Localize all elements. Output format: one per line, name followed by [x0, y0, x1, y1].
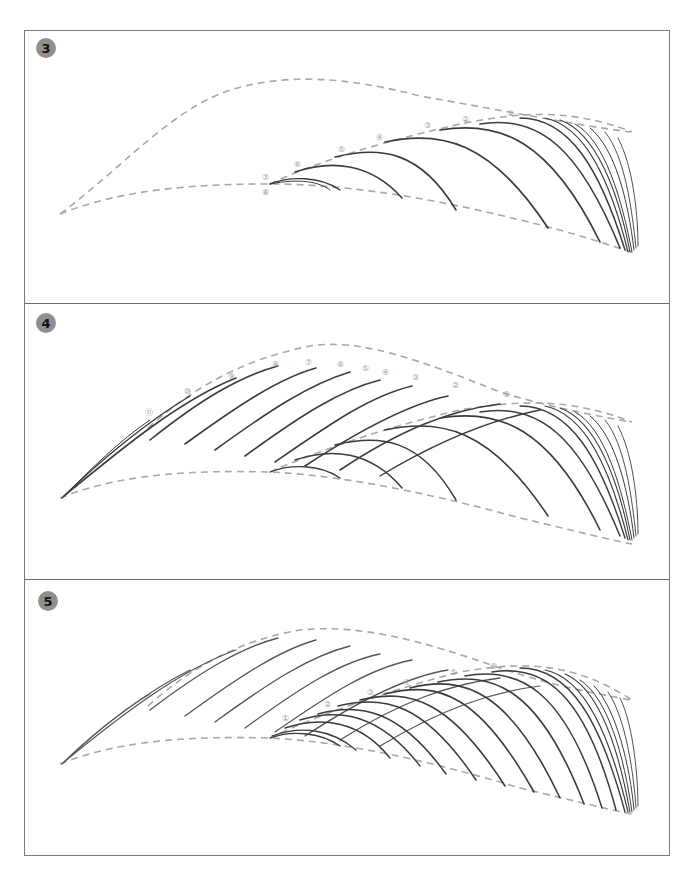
svg-text:①: ①: [282, 714, 289, 723]
svg-text:②: ②: [462, 115, 469, 124]
svg-text:⑨: ⑨: [228, 372, 235, 381]
svg-text:③: ③: [412, 373, 419, 382]
svg-text:①: ①: [503, 390, 510, 399]
svg-text:⑥: ⑥: [337, 360, 344, 369]
eyebrow-diagram: .guide { fill: none; stroke: #a8a8a8; st…: [0, 0, 697, 884]
svg-text:⑥: ⑥: [294, 160, 301, 169]
svg-text:④: ④: [382, 368, 389, 377]
svg-text:③: ③: [367, 688, 374, 697]
svg-text:⑦: ⑦: [305, 358, 312, 367]
svg-text:②: ②: [452, 381, 459, 390]
panel-5: ① ② ③ ④ ⑤ ⑥: [60, 629, 638, 814]
svg-text:⑪: ⑪: [145, 408, 153, 417]
svg-text:⑤: ⑤: [338, 145, 345, 154]
svg-text:⑩: ⑩: [184, 387, 191, 396]
svg-text:⑥: ⑥: [490, 662, 497, 671]
svg-text:⑤: ⑤: [362, 364, 369, 373]
svg-text:⑤: ⑤: [450, 668, 457, 677]
svg-text:⑦: ⑦: [262, 173, 269, 182]
svg-text:①: ①: [507, 109, 514, 118]
panel-3: ① ② ③ ④ ⑤ ⑥ ⑦ ⑧: [60, 79, 638, 252]
svg-text:④: ④: [376, 133, 383, 142]
svg-text:③: ③: [424, 121, 431, 130]
svg-text:⑧: ⑧: [272, 360, 279, 369]
svg-text:④: ④: [403, 678, 410, 687]
svg-text:⑧: ⑧: [262, 188, 269, 197]
svg-text:②: ②: [324, 700, 331, 709]
panel-4: ① ② ③ ④ ⑤ ⑥ ⑦ ⑧ ⑨ ⑩ ⑪: [60, 344, 638, 544]
